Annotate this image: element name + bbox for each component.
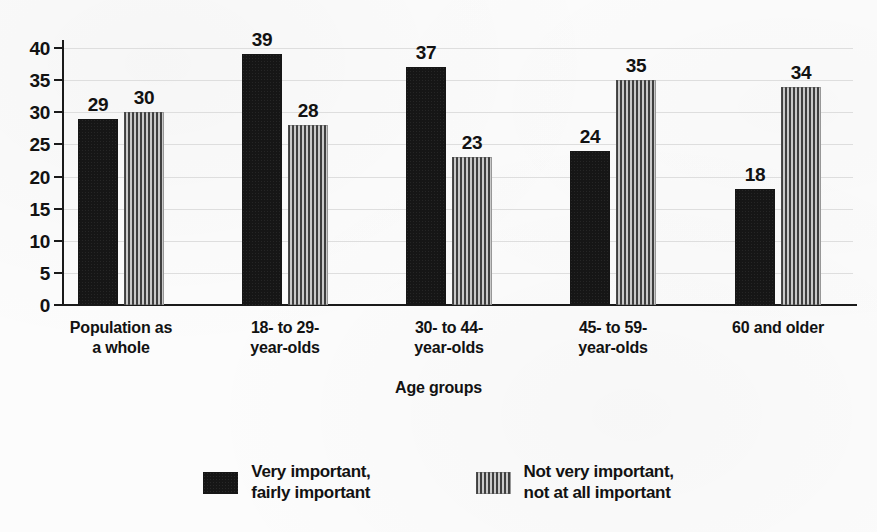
bar-value-label: 39: [230, 30, 294, 49]
bar: [78, 119, 118, 305]
bar: [242, 54, 282, 305]
bar: [781, 87, 821, 305]
y-axis-tick-mark: [54, 47, 63, 49]
bar-value-label: 24: [558, 127, 622, 146]
y-axis-tick-label: 35: [6, 71, 50, 90]
y-axis-tick-mark: [54, 272, 63, 274]
bar-value-label: 34: [769, 63, 833, 82]
y-axis-tick-mark: [54, 304, 63, 306]
bar-value-label: 30: [112, 88, 176, 107]
y-axis-tick-label: 30: [6, 103, 50, 122]
bar-value-label: 23: [440, 133, 504, 152]
gridline: [63, 80, 853, 81]
bar: [406, 67, 446, 305]
bar-value-label: 28: [276, 101, 340, 120]
y-axis-tick-mark: [54, 176, 63, 178]
bar: [616, 80, 656, 305]
y-axis-tick-mark: [54, 111, 63, 113]
bar: [452, 157, 492, 305]
bar-value-label: 18: [723, 165, 787, 184]
y-axis-tick-mark: [54, 208, 63, 210]
legend-item: Not very important, not at all important: [476, 462, 674, 503]
y-axis-tick-label: 40: [6, 39, 50, 58]
legend-swatch: [203, 472, 238, 494]
x-axis-category-label: Population as a whole: [36, 318, 206, 358]
gridline: [63, 112, 853, 113]
bar: [124, 112, 164, 305]
chart-figure: 0510152025303540 29303928372324351834 Po…: [0, 0, 877, 532]
legend-label: Not very important, not at all important: [524, 462, 674, 503]
y-axis-tick-label: 15: [6, 200, 50, 219]
y-axis-tick-mark: [54, 79, 63, 81]
x-axis-category-label: 18- to 29- year-olds: [200, 318, 370, 358]
bar-value-label: 35: [604, 56, 668, 75]
y-axis-tick-label: 20: [6, 168, 50, 187]
bar: [570, 151, 610, 305]
gridline: [63, 48, 853, 49]
x-axis-category-label: 30- to 44- year-olds: [364, 318, 534, 358]
y-axis-tick-label: 10: [6, 232, 50, 251]
chart-legend: Very important, fairly importantNot very…: [0, 462, 877, 503]
bar-value-label: 37: [394, 43, 458, 62]
legend-item: Very important, fairly important: [203, 462, 370, 503]
y-axis-tick-mark: [54, 143, 63, 145]
x-axis-category-label: 45- to 59- year-olds: [528, 318, 698, 358]
y-axis-tick-label: 5: [6, 264, 50, 283]
y-axis-tick-label: 0: [6, 296, 50, 315]
legend-swatch: [476, 472, 511, 494]
x-axis-title: Age groups: [0, 379, 877, 397]
x-axis-category-label: 60 and older: [693, 318, 863, 338]
bar: [735, 189, 775, 305]
bar: [288, 125, 328, 305]
legend-label: Very important, fairly important: [251, 462, 370, 503]
y-axis-tick-mark: [54, 240, 63, 242]
y-axis-tick-label: 25: [6, 135, 50, 154]
y-axis-tick-labels: 0510152025303540: [0, 0, 50, 532]
